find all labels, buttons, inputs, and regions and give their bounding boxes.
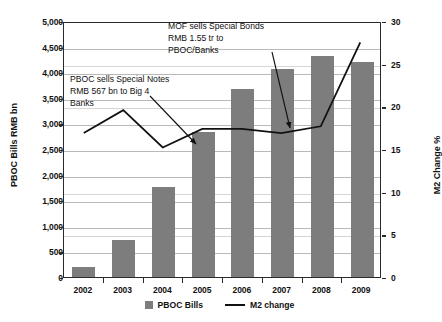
y-axis-left-tick-label: 4,000	[23, 69, 63, 78]
x-axis-tick-label: 2008	[301, 286, 341, 295]
legend-item-pboc-bills: PBOC Bills	[145, 300, 203, 310]
y-axis-left-tick-label: 3,500	[23, 95, 63, 104]
y-axis-right-tick-label: 20	[391, 103, 415, 112]
y-axis-left-tick-label: 2,000	[23, 172, 63, 181]
y-axis-right-tick-label: 15	[391, 146, 415, 155]
y-axis-right-tick-label: 0	[391, 274, 415, 283]
y-axis-right-tick-mark	[382, 235, 386, 236]
x-axis-tick-mark	[262, 278, 263, 283]
y-axis-left-tick-label: 500	[23, 248, 63, 257]
y-axis-left-tick-label: 1,500	[23, 197, 63, 206]
y-axis-left-tick-label: 3,000	[23, 120, 63, 129]
x-axis-tick-mark	[222, 278, 223, 283]
y-axis-left-tick-label: 2,500	[23, 146, 63, 155]
y-axis-right-tick-label: 25	[391, 61, 415, 70]
plot-area	[63, 22, 381, 278]
x-axis-tick-mark	[182, 278, 183, 283]
y-axis-right-tick-label: 10	[391, 189, 415, 198]
y-axis-left: 05001,0001,5002,0002,5003,0003,5004,0004…	[15, 0, 63, 322]
bar-swatch-icon	[145, 301, 153, 309]
y-axis-right-tick-mark	[382, 22, 386, 23]
annotation-line: PBOC sells Special Notes	[70, 74, 169, 86]
x-axis-tick-mark	[103, 278, 104, 283]
line-series-m2-change	[64, 23, 380, 277]
x-axis-tick-mark	[302, 278, 303, 283]
x-axis-tick-label: 2005	[182, 286, 222, 295]
line-swatch-icon	[225, 304, 245, 306]
y-axis-left-tick-mark	[59, 278, 63, 279]
y-axis-right-title: M2 Change %	[432, 110, 442, 220]
annotation-mof-special-bonds: MOF sells Special Bonds RMB 1.55 tr to P…	[168, 21, 264, 57]
legend-label: PBOC Bills	[158, 300, 203, 310]
y-axis-right: 051015202530	[381, 0, 427, 322]
y-axis-right-tick-label: 30	[391, 18, 415, 27]
y-axis-left-tick-label: 4,500	[23, 44, 63, 53]
y-axis-right-tick-mark	[382, 150, 386, 151]
chart-legend: PBOC Bills M2 change	[0, 300, 439, 310]
y-axis-left-tick-label: 1,000	[23, 223, 63, 232]
x-axis-tick-label: 2007	[262, 286, 302, 295]
x-axis-tick-label: 2004	[142, 286, 182, 295]
annotation-line: Banks	[70, 98, 169, 110]
x-axis-tick-label: 2003	[103, 286, 143, 295]
annotation-line: MOF sells Special Bonds	[168, 21, 264, 33]
x-axis-tick-mark	[341, 278, 342, 283]
y-axis-left-tick-label: 5,000	[23, 18, 63, 27]
annotation-pboc-special-notes: PBOC sells Special Notes RMB 567 bn to B…	[70, 74, 169, 110]
y-axis-right-tick-label: 5	[391, 231, 415, 240]
y-axis-left-title: PBOC Bills RMB bn	[9, 85, 19, 205]
y-axis-right-tick-mark	[382, 107, 386, 108]
x-axis-tick-label: 2006	[222, 286, 262, 295]
y-axis-right-tick-mark	[382, 278, 386, 279]
x-axis-tick-label: 2009	[341, 286, 381, 295]
annotation-line: RMB 567 bn to Big 4	[70, 86, 169, 98]
legend-item-m2-change: M2 change	[225, 300, 294, 310]
legend-label: M2 change	[250, 300, 294, 310]
x-axis-tick-mark	[143, 278, 144, 283]
x-axis-tick-label: 2002	[63, 286, 103, 295]
y-axis-right-tick-mark	[382, 65, 386, 66]
annotation-line: PBOC/Banks	[168, 45, 264, 57]
y-axis-left-tick-label: 0	[23, 274, 63, 283]
annotation-line: RMB 1.55 tr to	[168, 33, 264, 45]
y-axis-right-tick-mark	[382, 193, 386, 194]
